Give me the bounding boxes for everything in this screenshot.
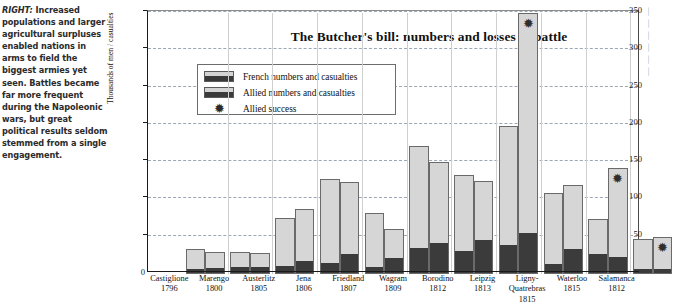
x-axis-label: Waterloo1815 xyxy=(550,274,595,295)
x-axis-label: Ligny-Quatrebras1815 xyxy=(505,274,550,305)
x-label-name: Leipzig xyxy=(470,274,496,283)
y-tick-mark xyxy=(143,47,147,48)
x-label-name: Ligny- xyxy=(516,274,539,283)
bar-allied-borodino xyxy=(474,181,494,274)
x-label-name: Austerlitz xyxy=(242,274,275,283)
group-separator xyxy=(362,13,363,274)
x-axis-label: Castiglione1796 xyxy=(147,274,192,295)
x-label-year: 1809 xyxy=(371,284,416,294)
bar-allied-wagram xyxy=(429,162,449,274)
x-label-year: 1812 xyxy=(415,284,460,294)
casualty-segment xyxy=(410,248,428,273)
y-tick-label: 50 xyxy=(612,229,642,239)
allied-success-star-icon: ✹ xyxy=(657,241,668,254)
bar-french-austerlitz xyxy=(275,218,295,274)
cutoff-text-fragment: ⎸ xyxy=(648,6,673,18)
x-axis-label: Jena1806 xyxy=(281,274,326,295)
bar-allied-friedland xyxy=(384,229,404,274)
x-axis-label: Austerlitz1805 xyxy=(236,274,281,295)
cutoff-right-column: ⎸⎸⎸⎸⎸⎸ xyxy=(648,6,673,78)
x-label-year: 1805 xyxy=(236,284,281,294)
y-tick-label: 100 xyxy=(612,191,642,201)
side-caption: RIGHT: Increased populations and larger … xyxy=(2,4,110,161)
casualty-segment xyxy=(475,240,493,273)
x-axis-label: Leipzig1813 xyxy=(460,274,505,295)
y-tick-mark xyxy=(143,85,147,86)
y-tick-mark xyxy=(143,10,147,11)
y-tick-label: 200 xyxy=(612,117,642,127)
y-tick-mark xyxy=(143,122,147,123)
x-label-name: Salamanca xyxy=(598,274,634,283)
x-axis-label: Wagram1809 xyxy=(371,274,416,295)
casualty-segment xyxy=(564,249,582,273)
y-tick-zero: 0 xyxy=(131,267,145,277)
bar-allied-austerlitz xyxy=(295,209,315,274)
group-separator xyxy=(451,13,452,274)
casualty-segment xyxy=(500,245,518,273)
group-separator xyxy=(541,13,542,274)
x-axis-label: Borodino1812 xyxy=(415,274,460,295)
y-tick-label: 350 xyxy=(612,5,642,15)
chart-page: RIGHT: Increased populations and larger … xyxy=(0,0,673,305)
x-label-name: Wagram xyxy=(379,274,407,283)
casualty-segment xyxy=(455,251,473,273)
casualty-segment xyxy=(430,243,448,273)
x-label-name: Friedland xyxy=(332,274,364,283)
cutoff-text-fragment: ⎸ xyxy=(648,18,673,30)
x-label-name: Castiglione xyxy=(150,274,188,283)
allied-success-star-icon: ✹ xyxy=(523,17,534,30)
bar-french-waterloo xyxy=(588,219,608,274)
bar-series-container: ✹✹✹ xyxy=(183,13,673,274)
x-label-name: Waterloo xyxy=(557,274,588,283)
x-label-year: 1806 xyxy=(281,284,326,294)
y-tick-label: 150 xyxy=(612,154,642,164)
chart-area: Thousands of men / casualties 0 The Butc… xyxy=(112,8,642,300)
bar-french-wagram xyxy=(409,146,429,274)
x-axis-label: Salamanca1812 xyxy=(594,274,639,295)
y-tick-label: 250 xyxy=(612,80,642,90)
x-label-year: 1815 xyxy=(550,284,595,294)
x-label-year: 1807 xyxy=(326,284,371,294)
x-label-year: 1812 xyxy=(594,284,639,294)
x-axis-label: Friedland1807 xyxy=(326,274,371,295)
caption-text: Increased populations and larger agricul… xyxy=(2,5,107,160)
y-tick-label: 300 xyxy=(612,42,642,52)
cutoff-text-fragment: ⎸ xyxy=(648,54,673,66)
group-separator xyxy=(586,13,587,274)
x-label-year: 1815 xyxy=(505,295,550,305)
allied-success-star-icon: ✹ xyxy=(612,172,623,185)
group-separator xyxy=(317,13,318,274)
x-label-name-2: Quatrebras xyxy=(505,284,550,294)
bar-allied-ligny-quatrebras xyxy=(563,185,583,274)
bar-french-jena xyxy=(320,179,340,274)
y-tick-mark xyxy=(143,196,147,197)
bar-french-salamanca xyxy=(633,239,653,274)
x-label-name: Jena xyxy=(296,274,311,283)
x-label-year: 1800 xyxy=(192,284,237,294)
group-separator xyxy=(407,13,408,274)
y-tick-mark xyxy=(143,159,147,160)
x-label-year: 1796 xyxy=(147,284,192,294)
bar-french-leipzig xyxy=(499,126,519,274)
cutoff-text-fragment: ⎸ xyxy=(648,42,673,54)
casualty-segment xyxy=(519,233,537,273)
x-label-year: 1813 xyxy=(460,284,505,294)
x-axis-line xyxy=(147,271,639,272)
group-separator xyxy=(496,13,497,274)
caption-lead: RIGHT: xyxy=(2,5,33,15)
cutoff-text-fragment: ⎸ xyxy=(648,66,673,78)
group-separator xyxy=(228,13,229,274)
bar-french-borodino xyxy=(454,175,474,274)
plot-box: The Butcher's bill: numbers and losses i… xyxy=(147,10,639,271)
cutoff-text-fragment: ⎸ xyxy=(648,30,673,42)
x-label-name: Marengo xyxy=(199,274,229,283)
y-tick-mark xyxy=(143,234,147,235)
x-axis-labels: Castiglione1796Marengo1800Austerlitz1805… xyxy=(147,274,639,305)
casualty-segment xyxy=(654,269,672,273)
y-axis-label: Thousands of men / casualties xyxy=(106,12,115,104)
bar-french-ligny-quatrebras xyxy=(544,193,564,274)
x-label-name: Borodino xyxy=(422,274,454,283)
x-axis-label: Marengo1800 xyxy=(192,274,237,295)
bar-french-friedland xyxy=(365,213,385,274)
group-separator xyxy=(272,13,273,274)
